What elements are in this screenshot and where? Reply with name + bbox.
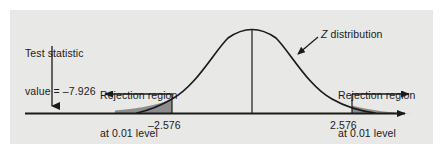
rejection-region-right-label: Rejection region at 0.01 level: [338, 64, 415, 155]
z-distribution-label: Z distribution: [321, 28, 383, 41]
test-statistic-label-line2: value = –7.926: [25, 85, 96, 98]
rejection-region-right-label-line1: Rejection region: [338, 89, 415, 102]
z-distribution-label-text: distribution: [328, 28, 383, 40]
test-statistic-label-line1: Test statistic: [25, 47, 96, 60]
axis-tick-label-positive-critical: 2.576: [330, 119, 357, 131]
test-statistic-label: Test statistic value = –7.926: [25, 22, 96, 122]
rejection-region-left-label: Rejection region at 0.01 level: [100, 64, 177, 155]
z-distribution-callout-arrow: [298, 37, 318, 54]
z-distribution-figure: Test statistic value = –7.926 Rejection …: [0, 0, 443, 155]
rejection-region-left-label-line1: Rejection region: [100, 89, 177, 102]
axis-tick-label-negative-critical: –2.576: [148, 119, 181, 131]
